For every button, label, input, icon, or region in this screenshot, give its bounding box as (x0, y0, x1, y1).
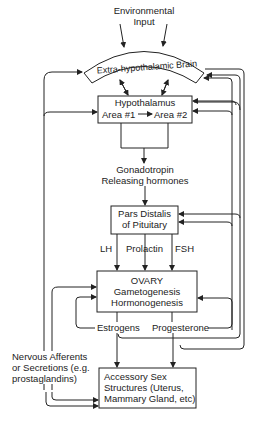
hypothalamus-title: Hypothalamus (98, 97, 192, 108)
fsh-label: FSH (175, 243, 194, 254)
pituitary-node: Pars Distalis of Pituitary (111, 208, 178, 230)
environmental-input-line2: Input (104, 16, 184, 27)
hypothalamus-area2: Area #2 (154, 109, 187, 120)
prolactin-label: Prolactin (126, 243, 163, 254)
accessory-sex-node: Accessory Sex Structures (Uterus, Mammar… (104, 371, 195, 404)
environmental-input-line1: Environmental (104, 5, 184, 16)
pituitary-line2: of Pituitary (111, 219, 178, 230)
gnrh-label: Gonadotropin Releasing hormones (95, 164, 195, 186)
ovary-line3: Hormonogenesis (97, 297, 197, 308)
nervous-afferents-line1: Nervous Afferents (12, 351, 90, 362)
lh-label: LH (100, 243, 112, 254)
pituitary-line1: Pars Distalis (111, 208, 178, 219)
accessory-sex-line1: Accessory Sex (104, 371, 195, 382)
estrogens-label: Estrogens (97, 322, 140, 333)
progesterone-label: Progesterone (152, 322, 209, 333)
ovary-title: OVARY (97, 275, 197, 286)
nervous-afferents-label: Nervous Afferents or Secretions (e.g. pr… (12, 351, 90, 384)
ovary-line2: Gametogenesis (97, 286, 197, 297)
nervous-afferents-line2: or Secretions (e.g. (12, 362, 90, 373)
hypothalamus-area1: Area #1 (102, 109, 135, 120)
accessory-sex-line3: Mammary Gland, etc) (104, 393, 195, 404)
environmental-input-label: Environmental Input (104, 5, 184, 27)
gnrh-line2: Releasing hormones (95, 175, 195, 186)
accessory-sex-line2: Structures (Uterus, (104, 382, 195, 393)
gnrh-line1: Gonadotropin (95, 164, 195, 175)
ovary-node: OVARY Gametogenesis Hormonogenesis (97, 275, 197, 308)
nervous-afferents-line3: prostaglandins) (12, 373, 90, 384)
hypothalamus-node: Hypothalamus (98, 97, 192, 108)
